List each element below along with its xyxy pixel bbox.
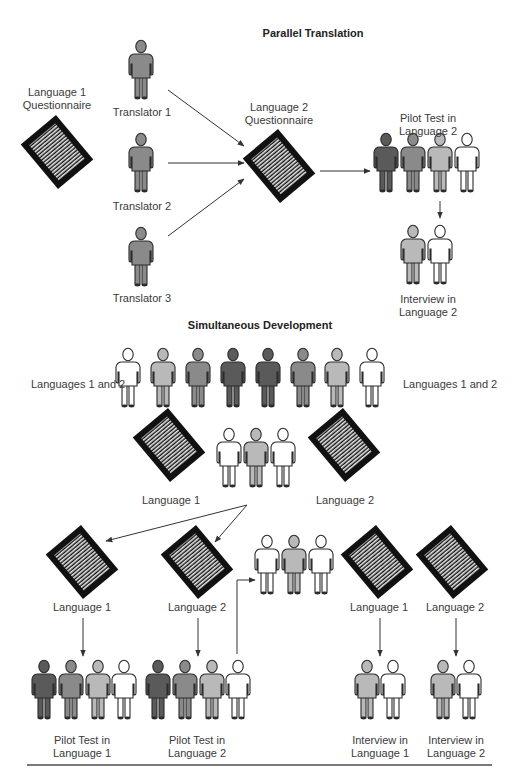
pilot-test-label: Pilot Test in Language 2	[383, 112, 473, 138]
person-icon-interview1-a	[355, 660, 379, 719]
interview1-label: Interview in Language 1	[351, 734, 409, 760]
person-icon-pilot1-c	[86, 660, 110, 719]
arrow-pilot2-to-reviewers2	[237, 580, 255, 654]
questionnaire-icon-final-doc2	[416, 525, 489, 599]
person-icon-pilot2-c	[428, 133, 452, 192]
person-icon-reviewers-b	[244, 428, 268, 487]
person-icon-translator-2	[129, 133, 153, 192]
person-icon-pilot2-a	[374, 133, 398, 192]
final-doc2-label: Language 2	[426, 601, 484, 614]
person-icon-translator-3	[129, 227, 153, 286]
arrow-t1-to-target	[168, 90, 244, 146]
person-icon-interview2b-a	[431, 660, 455, 719]
person-icon-translator-1	[129, 40, 153, 99]
doc1-label: Language 1	[142, 494, 200, 507]
person-icon-team-4	[221, 348, 245, 407]
pilot1-label: Pilot Test in Language 1	[53, 734, 111, 760]
person-icon-interview1-b	[381, 660, 405, 719]
split-doc2-label: Language 2	[168, 601, 226, 614]
arrow-doc1-to-split1	[106, 505, 247, 541]
team-label-left: Languages 1 and 2	[31, 378, 125, 391]
section-title-simultaneous: Simultaneous Development	[188, 319, 332, 331]
person-icon-pilot1-a	[32, 660, 56, 719]
translator-2-label: Translator 2	[113, 200, 171, 213]
questionnaire-icon-parallel-source	[21, 115, 94, 189]
person-icon-reviewers2-c	[309, 535, 333, 594]
person-icon-team-6	[291, 348, 315, 407]
translator-1-label: Translator 1	[113, 106, 171, 119]
person-icon-interview2b-b	[457, 660, 481, 719]
translator-3-label: Translator 3	[113, 292, 171, 305]
questionnaire-icon-final-doc1	[341, 525, 414, 599]
person-icon-pilot2-d	[455, 133, 479, 192]
person-icon-team-2	[151, 348, 175, 407]
person-icon-reviewers2-a	[255, 535, 279, 594]
bottom-rule	[27, 764, 492, 766]
section-title-parallel: Parallel Translation	[263, 27, 364, 39]
person-icon-team-8	[360, 348, 384, 407]
questionnaire-icon-split-doc2	[161, 525, 234, 599]
person-icon-interview2-b	[428, 225, 452, 284]
person-icon-pilot2b-d	[226, 660, 250, 719]
questionnaire-icon-split-doc1	[46, 525, 119, 599]
target-questionnaire-label: Language 2 Questionnaire	[245, 101, 314, 127]
person-icon-pilot2-b	[401, 133, 425, 192]
doc2-label: Language 2	[316, 494, 374, 507]
arrow-doc1-to-split2	[215, 505, 247, 542]
arrow-t3-to-target	[168, 179, 244, 236]
person-icon-pilot1-b	[59, 660, 83, 719]
questionnaire-icon-sim-doc1	[133, 408, 206, 482]
person-icon-pilot2b-b	[173, 660, 197, 719]
interview2-label: Interview in Language 2	[427, 734, 485, 760]
person-icon-team-5	[256, 348, 280, 407]
team-label-right: Languages 1 and 2	[403, 378, 497, 391]
interview-label: Interview in Language 2	[383, 293, 473, 319]
person-icon-pilot2b-c	[200, 660, 224, 719]
person-icon-reviewers2-b	[282, 535, 306, 594]
pilot2-label: Pilot Test in Language 2	[168, 734, 226, 760]
person-icon-pilot2b-a	[146, 660, 170, 719]
diagram-canvas: Parallel Translation Language 1 Question…	[0, 0, 518, 779]
person-icon-interview2-a	[401, 225, 425, 284]
questionnaire-icon-sim-doc2	[308, 408, 381, 482]
person-icon-reviewers-c	[271, 428, 295, 487]
split-doc1-label: Language 1	[53, 601, 111, 614]
final-doc1-label: Language 1	[350, 601, 408, 614]
questionnaire-icon-parallel-target	[243, 129, 316, 203]
person-icon-team-3	[186, 348, 210, 407]
person-icon-pilot1-d	[112, 660, 136, 719]
person-icon-reviewers-a	[217, 428, 241, 487]
source-questionnaire-label: Language 1 Questionnaire	[23, 86, 92, 112]
person-icon-team-7	[325, 348, 349, 407]
